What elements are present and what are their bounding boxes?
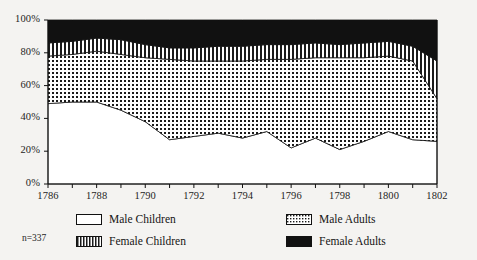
legend-item-female-adults: Female Adults (286, 235, 386, 247)
x-tick-label: 1802 (413, 190, 461, 201)
legend-swatch-female-adults (286, 236, 312, 247)
stacked-area-plot (0, 0, 477, 260)
y-tick-label: 0% (0, 177, 40, 188)
x-tick-label: 1792 (170, 190, 218, 201)
chart-container: 0%20%40%60%80%100% 178617881790179217941… (0, 0, 477, 260)
legend-swatch-female-children (76, 236, 102, 247)
x-tick-label: 1800 (364, 190, 412, 201)
legend-item-female-children: Female Children (76, 235, 186, 247)
y-tick-label: 60% (0, 79, 40, 90)
y-tick-label: 80% (0, 46, 40, 57)
y-tick-label: 40% (0, 111, 40, 122)
legend-label-male-children: Male Children (109, 213, 176, 225)
area-series-group (48, 20, 437, 184)
legend-swatch-male-children (76, 214, 102, 225)
x-tick-label: 1790 (121, 190, 169, 201)
legend-label-male-adults: Male Adults (319, 213, 376, 225)
x-tick-label: 1796 (267, 190, 315, 201)
legend-swatch-male-adults (286, 214, 312, 225)
y-tick-label: 20% (0, 144, 40, 155)
x-tick-label: 1788 (73, 190, 121, 201)
x-tick-label: 1786 (24, 190, 72, 201)
sample-size-annotation: n=337 (22, 233, 46, 243)
x-tick-label: 1798 (316, 190, 364, 201)
y-tick-label: 100% (0, 13, 40, 24)
legend-item-male-adults: Male Adults (286, 213, 376, 225)
legend-label-female-adults: Female Adults (319, 235, 386, 247)
legend-label-female-children: Female Children (109, 235, 186, 247)
x-tick-label: 1794 (219, 190, 267, 201)
legend-item-male-children: Male Children (76, 213, 176, 225)
